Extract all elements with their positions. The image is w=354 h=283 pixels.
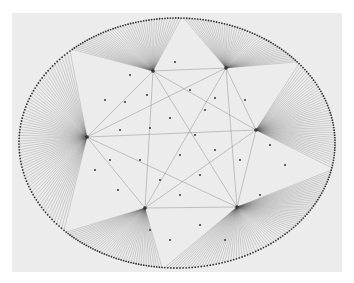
graph-edge xyxy=(256,91,321,130)
graph-node xyxy=(179,194,181,196)
graph-node xyxy=(38,82,40,84)
graph-node xyxy=(234,26,236,28)
graph-node xyxy=(320,90,322,92)
graph-node xyxy=(200,266,202,268)
graph-node xyxy=(261,37,263,39)
graph-node xyxy=(117,189,119,191)
graph-node xyxy=(334,139,336,141)
graph-node xyxy=(120,25,122,27)
graph-node xyxy=(334,144,336,146)
graph-node xyxy=(244,99,246,101)
graph-node xyxy=(31,191,33,193)
graph-node xyxy=(108,255,110,257)
graph-edge xyxy=(198,19,226,68)
graph-edge xyxy=(226,68,256,130)
graph-node xyxy=(316,201,318,203)
graph-node xyxy=(18,146,20,148)
graph-node xyxy=(282,235,284,237)
graph-node xyxy=(275,240,277,242)
graph-node xyxy=(263,247,265,249)
graph-node xyxy=(18,143,20,145)
graph-node xyxy=(176,267,178,269)
graph-edge xyxy=(145,68,226,208)
graph-node xyxy=(334,137,336,139)
graph-node xyxy=(218,263,220,265)
graph-node xyxy=(37,202,39,204)
graph-node xyxy=(209,264,211,266)
graph-node xyxy=(268,244,270,246)
graph-node xyxy=(103,253,105,255)
graph-node xyxy=(194,134,196,136)
graph-node xyxy=(270,243,272,245)
graph-node xyxy=(279,47,281,49)
graph-node xyxy=(151,265,153,267)
graph-node xyxy=(183,17,185,19)
graph-node xyxy=(107,30,109,32)
graph-node xyxy=(41,77,43,79)
graph-node xyxy=(180,17,182,19)
graph-node xyxy=(93,36,95,38)
graph-node xyxy=(244,29,246,31)
graph-node xyxy=(52,65,54,67)
graph-node xyxy=(85,244,87,246)
graph-node xyxy=(213,21,215,23)
graph-node xyxy=(321,93,323,95)
graph-edge xyxy=(256,130,333,160)
graph-node xyxy=(22,169,24,171)
graph-node xyxy=(293,58,295,60)
graph-node xyxy=(330,172,332,174)
graph-node xyxy=(156,18,158,20)
graph-node xyxy=(329,109,331,111)
graph-node xyxy=(238,257,240,259)
graph-node xyxy=(309,75,311,77)
graph-node xyxy=(43,209,45,211)
graph-edge xyxy=(153,68,226,71)
graph-node xyxy=(259,194,261,196)
graph-node xyxy=(194,18,196,20)
graph-node xyxy=(143,264,145,266)
graph-node xyxy=(175,17,177,19)
graph-node xyxy=(208,20,210,22)
graph-node xyxy=(120,259,122,261)
graph-node xyxy=(111,256,113,258)
graph-node xyxy=(145,265,147,267)
graph-edge xyxy=(55,64,87,137)
graph-node xyxy=(242,28,244,30)
graph-node xyxy=(122,25,124,27)
graph-node xyxy=(59,58,61,60)
graph-node xyxy=(199,174,201,176)
graph-node xyxy=(179,267,181,269)
graph-node xyxy=(283,50,285,52)
graph-node xyxy=(331,167,333,169)
graph-node xyxy=(148,265,150,267)
graph-node xyxy=(25,106,27,108)
graph-node xyxy=(330,114,332,116)
graph-node xyxy=(112,28,114,30)
graph-node xyxy=(39,204,41,206)
graph-node xyxy=(202,19,204,21)
graph-node xyxy=(233,259,235,261)
graph-node xyxy=(325,183,327,185)
graph-node xyxy=(69,234,71,236)
graph-node xyxy=(129,74,131,76)
graph-node xyxy=(86,39,88,41)
graph-node xyxy=(69,50,71,52)
graph-edge xyxy=(87,130,256,137)
graph-edge xyxy=(97,208,145,251)
graph-edge xyxy=(145,71,153,208)
graph-node xyxy=(333,154,335,156)
graph-edges xyxy=(19,18,335,268)
graph-node xyxy=(132,22,134,24)
graph-node xyxy=(226,24,228,26)
graph-node xyxy=(317,199,319,201)
graph-node xyxy=(23,112,25,114)
graph-node xyxy=(71,48,73,50)
graph-node xyxy=(327,105,329,107)
graph-node xyxy=(333,157,335,159)
graph-node xyxy=(56,223,58,225)
graph-edge xyxy=(171,207,237,268)
graph-node xyxy=(18,140,20,142)
graph-node xyxy=(308,73,310,75)
graph-node xyxy=(24,109,26,111)
graph-node xyxy=(334,134,336,136)
